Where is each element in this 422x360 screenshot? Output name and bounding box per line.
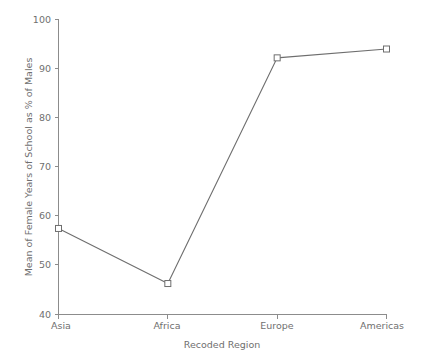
y-tick-label-50: 50 (39, 259, 51, 270)
y-tick-label-70: 70 (39, 161, 51, 172)
y-tick-label-80: 80 (39, 112, 51, 123)
y-tick-label-100: 100 (33, 14, 51, 25)
x-tick-label-americas: Americas (360, 320, 404, 331)
x-axis-ticks (59, 315, 387, 319)
y-axis-tick-labels: 100 90 80 70 60 50 40 (33, 14, 51, 320)
y-axis-ticks (55, 20, 59, 315)
x-tick-label-asia: Asia (51, 320, 71, 331)
data-point-europe (274, 55, 280, 61)
series-line-female-years-pct (59, 49, 387, 284)
axis-frame (59, 20, 387, 315)
y-tick-label-90: 90 (39, 63, 51, 74)
y-axis-title: Mean of Female Years of School as % of M… (23, 58, 34, 277)
chart-canvas: 100 90 80 70 60 50 40 Asia Africa Europe… (0, 0, 422, 360)
x-tick-label-africa: Africa (153, 320, 180, 331)
data-series-group (56, 46, 390, 287)
series-markers (56, 46, 390, 287)
data-point-africa (165, 281, 171, 287)
x-axis-title: Recoded Region (184, 339, 261, 350)
line-chart: 100 90 80 70 60 50 40 Asia Africa Europe… (0, 0, 422, 360)
y-tick-label-40: 40 (39, 309, 51, 320)
x-tick-label-europe: Europe (260, 320, 294, 331)
y-tick-label-60: 60 (39, 210, 51, 221)
x-axis-tick-labels: Asia Africa Europe Americas (51, 320, 404, 331)
data-point-asia (56, 225, 62, 231)
data-point-americas (384, 46, 390, 52)
